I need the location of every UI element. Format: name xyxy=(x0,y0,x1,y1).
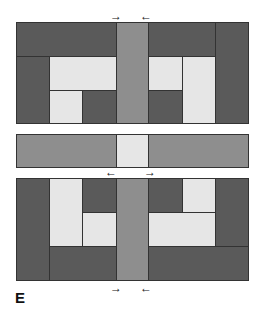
block-dark xyxy=(215,178,249,247)
block-light xyxy=(182,56,216,124)
block-dark xyxy=(148,22,216,57)
arrow-left-icon: ← xyxy=(140,11,152,21)
arrow-right-icon: → xyxy=(110,11,122,21)
block-dark xyxy=(49,246,117,281)
block-light xyxy=(182,178,216,213)
arrow-left-icon: ← xyxy=(105,167,117,177)
block-light xyxy=(82,212,117,247)
block-light xyxy=(116,134,149,168)
block-dark xyxy=(215,22,249,124)
block-mid xyxy=(148,134,249,168)
block-dark xyxy=(16,178,50,281)
block-light xyxy=(148,56,183,91)
block-dark xyxy=(148,246,249,281)
block-dark xyxy=(16,22,117,57)
block-mid xyxy=(16,134,117,168)
block-dark xyxy=(148,178,183,213)
arrow-right-icon: → xyxy=(110,283,122,293)
block-dark xyxy=(82,178,117,213)
block-light xyxy=(49,56,117,91)
center-column xyxy=(116,178,149,281)
block-light xyxy=(49,178,83,247)
block-light xyxy=(49,90,83,124)
center-column xyxy=(116,22,149,124)
block-light xyxy=(148,212,216,247)
arrow-left-icon: ← xyxy=(140,283,152,293)
arrow-right-icon: → xyxy=(144,167,156,177)
block-dark xyxy=(82,90,117,124)
figure-label: E xyxy=(15,289,25,306)
block-dark xyxy=(16,56,50,124)
block-dark xyxy=(148,90,183,124)
